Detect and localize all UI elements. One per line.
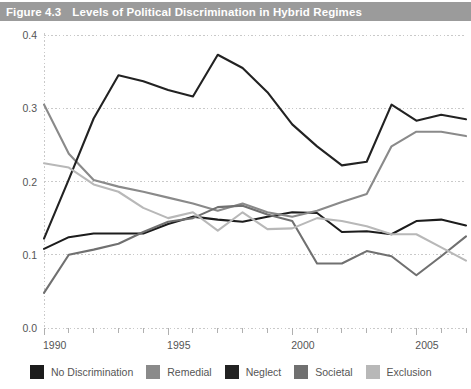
legend-item[interactable]: Exclusion	[366, 365, 432, 379]
page-title: Levels of Political Discrimination in Hy…	[61, 6, 362, 18]
axis-ticks	[44, 328, 466, 335]
legend-swatch-icon	[30, 365, 44, 379]
legend-label: Remedial	[167, 366, 211, 378]
y-axis-label: 0.3	[22, 102, 37, 114]
chart-legend: No DiscriminationRemedialNeglectSocietal…	[0, 358, 471, 386]
figure-title-bar: Figure 4.3 Levels of Political Discrimin…	[0, 2, 471, 21]
legend-label: Societal	[315, 366, 352, 378]
y-axis-labels: 0.00.10.20.30.4	[22, 29, 37, 334]
y-axis-label: 0.2	[22, 176, 37, 188]
figure-container: Figure 4.3 Levels of Political Discrimin…	[0, 0, 471, 389]
legend-label: No Discrimination	[51, 366, 133, 378]
legend-item[interactable]: Remedial	[146, 365, 211, 379]
legend-label: Neglect	[246, 366, 282, 378]
x-axis-label: 1995	[167, 339, 191, 351]
series-lines	[44, 55, 466, 293]
x-axis-labels: 1990199520002005	[43, 339, 439, 351]
x-axis-label: 2000	[291, 339, 315, 351]
x-axis-label: 2005	[415, 339, 439, 351]
series-line-no-discrimination	[44, 212, 466, 249]
legend-label: Exclusion	[387, 366, 432, 378]
series-line-remedial	[44, 105, 466, 217]
y-axis-label: 0.1	[22, 249, 37, 261]
y-axis-label: 0.4	[22, 29, 37, 41]
legend-item[interactable]: Societal	[294, 365, 352, 379]
chart-plot-area: 0.00.10.20.30.4 1990199520002005	[0, 21, 471, 355]
figure-number: Figure 4.3	[0, 6, 61, 18]
grid-lines	[44, 33, 466, 328]
line-chart: 0.00.10.20.30.4 1990199520002005	[0, 21, 471, 355]
y-axis-label: 0.0	[22, 322, 37, 334]
legend-swatch-icon	[225, 365, 239, 379]
legend-swatch-icon	[294, 365, 308, 379]
x-axis-label: 1990	[43, 339, 67, 351]
legend-item[interactable]: No Discrimination	[30, 365, 133, 379]
legend-swatch-icon	[366, 365, 380, 379]
legend-swatch-icon	[146, 365, 160, 379]
legend-item[interactable]: Neglect	[225, 365, 282, 379]
